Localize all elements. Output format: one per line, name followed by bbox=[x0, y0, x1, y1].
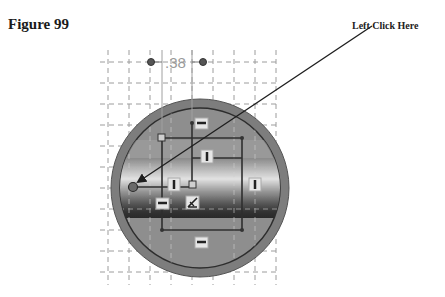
sketch-point[interactable] bbox=[240, 228, 244, 232]
horizontal-constraint-icon[interactable] bbox=[195, 118, 208, 129]
horizontal-constraint-icon[interactable] bbox=[156, 198, 169, 209]
target-point[interactable] bbox=[129, 183, 138, 192]
vertical-constraint-icon[interactable] bbox=[249, 178, 261, 191]
dimension-arrow-right-icon bbox=[200, 59, 207, 66]
vertical-constraint-icon[interactable] bbox=[168, 178, 180, 191]
sketch-point-square[interactable] bbox=[158, 134, 165, 141]
dimension-arrow-left-icon bbox=[148, 59, 155, 66]
sketch-point[interactable] bbox=[190, 121, 194, 125]
sketch-point-square[interactable] bbox=[189, 181, 196, 188]
vertical-constraint-icon[interactable] bbox=[201, 150, 213, 163]
dimension-value[interactable]: .38 bbox=[165, 54, 186, 71]
sketch-point[interactable] bbox=[160, 228, 164, 232]
sketch-point[interactable] bbox=[240, 136, 244, 140]
sketch-canvas[interactable]: .38 bbox=[0, 0, 445, 297]
horizontal-constraint-icon[interactable] bbox=[195, 237, 208, 248]
perpendicular-constraint-icon[interactable] bbox=[186, 196, 199, 209]
